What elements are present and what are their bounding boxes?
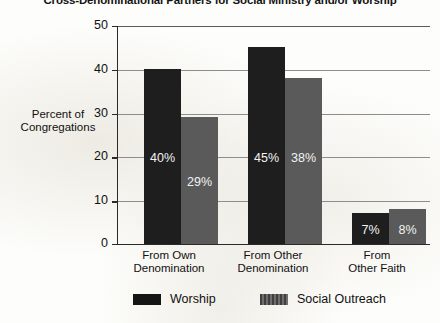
bar-group-from-own-denomination: 40% 29% (118, 26, 222, 244)
legend-label-worship: Worship (170, 292, 216, 306)
bar-value-outreach-from-other-faith: 8% (389, 223, 426, 237)
bar-worship-from-other-faith[interactable]: 7% (352, 213, 389, 244)
bar-group-from-other-faith: 7% 8% (326, 26, 430, 244)
bar-value-outreach-from-other-denomination: 38% (285, 151, 322, 165)
legend-item-worship[interactable]: Worship (133, 292, 216, 306)
legend-label-social-outreach: Social Outreach (297, 292, 386, 306)
bar-group-from-other-denomination: 45% 38% (222, 26, 326, 244)
ytick-label-0: 0 (101, 237, 108, 250)
legend-swatch-worship-icon (133, 294, 161, 305)
category-label-from-own-denomination: From Own Denomination (117, 249, 221, 274)
bar-value-worship-from-other-faith: 7% (352, 223, 389, 237)
category-label-from-other-faith: From Other Faith (325, 249, 429, 274)
ytick-label-30: 30 (94, 107, 108, 120)
ytick-label-40: 40 (94, 63, 108, 76)
bar-worship-from-own-denomination[interactable]: 40% (144, 69, 181, 244)
y-axis-title-line1: Percent of (32, 108, 84, 120)
category-label-from-other-denomination: From Other Denomination (221, 249, 325, 274)
chart-page: Cross-Denominational Partners for Social… (0, 0, 440, 323)
bar-outreach-from-other-denomination[interactable]: 38% (285, 78, 322, 244)
bar-value-worship-from-other-denomination: 45% (248, 151, 285, 165)
plot-area: 50 40 30 20 10 0 40% 29% 45% (117, 26, 430, 245)
ytick-label-10: 10 (94, 194, 108, 207)
y-axis-title-line2: Congregations (21, 121, 96, 133)
bar-worship-from-other-denomination[interactable]: 45% (248, 47, 285, 244)
bar-value-worship-from-own-denomination: 40% (144, 151, 181, 165)
chart-title: Cross-Denominational Partners for Social… (0, 0, 440, 6)
ytick-label-20: 20 (94, 150, 108, 163)
chart-legend: Worship Social Outreach (0, 292, 440, 308)
bar-outreach-from-other-faith[interactable]: 8% (389, 209, 426, 244)
bar-value-outreach-from-own-denomination: 29% (181, 175, 218, 189)
legend-swatch-social-outreach-icon (260, 294, 288, 305)
ytick-label-50: 50 (94, 19, 108, 32)
legend-item-social-outreach[interactable]: Social Outreach (260, 292, 386, 306)
bar-outreach-from-own-denomination[interactable]: 29% (181, 117, 218, 244)
